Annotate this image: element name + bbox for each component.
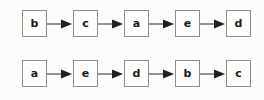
node-row1-1[interactable]: e <box>73 60 98 87</box>
arrow-right-icon <box>47 68 73 80</box>
node-row1-3[interactable]: b <box>175 60 200 87</box>
node-row1-0[interactable]: a <box>22 60 47 87</box>
diagram-canvas: b c a e <box>0 0 264 100</box>
node-label: b <box>31 18 39 29</box>
arrow-right-icon <box>98 68 124 80</box>
chain-row-0: b c a e <box>22 10 251 37</box>
node-row0-4[interactable]: d <box>226 10 251 37</box>
arrow-right-icon <box>200 68 226 80</box>
node-label: c <box>235 68 242 79</box>
node-label: c <box>82 18 89 29</box>
node-row1-4[interactable]: c <box>226 60 251 87</box>
node-label: b <box>184 68 192 79</box>
node-label: d <box>235 18 243 29</box>
node-label: a <box>31 68 38 79</box>
arrow-right-icon <box>47 18 73 30</box>
node-label: a <box>133 18 140 29</box>
node-row0-1[interactable]: c <box>73 10 98 37</box>
chain-row-1: a e d b <box>22 60 251 87</box>
arrow-right-icon <box>98 18 124 30</box>
node-label: d <box>133 68 141 79</box>
node-row0-2[interactable]: a <box>124 10 149 37</box>
arrow-right-icon <box>200 18 226 30</box>
arrow-right-icon <box>149 18 175 30</box>
node-label: e <box>184 18 191 29</box>
node-row0-3[interactable]: e <box>175 10 200 37</box>
node-label: e <box>82 68 89 79</box>
node-row1-2[interactable]: d <box>124 60 149 87</box>
arrow-right-icon <box>149 68 175 80</box>
node-row0-0[interactable]: b <box>22 10 47 37</box>
